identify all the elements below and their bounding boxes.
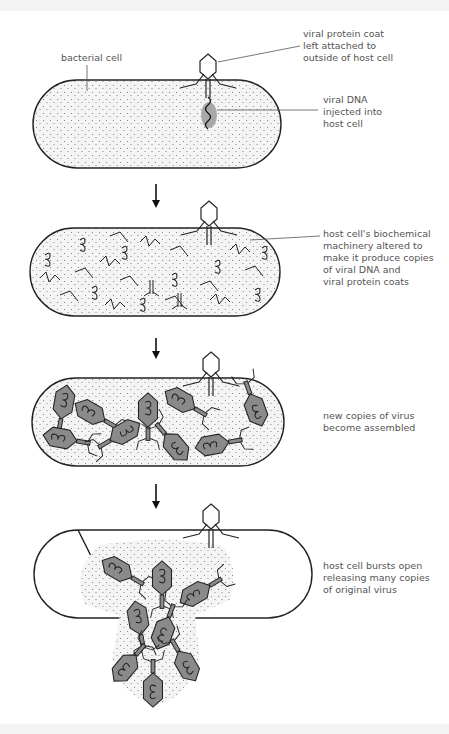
arrow-down-icon xyxy=(152,338,160,359)
burst-label: host cell bursts open releasing many cop… xyxy=(323,560,430,596)
viral-dna-label: viral DNA injected into host cell xyxy=(323,94,382,130)
viral-protein-coat-label: viral protein coat left attached to outs… xyxy=(303,28,393,64)
stage-4-burst-cell xyxy=(34,504,312,707)
assembly-label: new copies of virus become assembled xyxy=(323,410,415,434)
viral-dna-patch xyxy=(201,102,217,128)
stage-3-cell xyxy=(32,352,284,467)
bacterial-cell-label: bacterial cell xyxy=(61,52,122,64)
stage-2-cell xyxy=(30,201,320,316)
stage-1-cell xyxy=(33,46,318,168)
arrow-down-icon xyxy=(152,184,160,208)
machinery-altered-label: host cell's biochemical machinery altere… xyxy=(323,228,434,288)
arrow-down-icon xyxy=(152,484,160,509)
